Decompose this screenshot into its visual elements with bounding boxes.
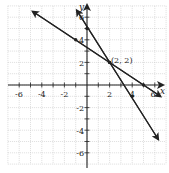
intersection-label: (2, 2) — [111, 56, 133, 65]
plotted-line — [77, 10, 158, 139]
y-tick-label: -4 — [76, 127, 84, 136]
x-tick-label: 2 — [107, 90, 112, 99]
x-tick-label: -2 — [61, 90, 69, 99]
plotted-line — [33, 12, 161, 97]
plotted-lines — [33, 10, 161, 139]
x-tick-label: -4 — [38, 90, 46, 99]
y-tick-label: -6 — [76, 149, 84, 158]
y-axis-label: y — [78, 2, 85, 12]
x-axis-label: x — [160, 86, 165, 96]
x-tick-label: -6 — [15, 90, 23, 99]
coordinate-plane: -6 -4 -2 2 4 6 6 4 2 -2 -4 -6 x y (2, 2) — [0, 0, 169, 173]
y-tick-label: -2 — [76, 104, 84, 113]
y-tick-label: 2 — [79, 59, 84, 68]
